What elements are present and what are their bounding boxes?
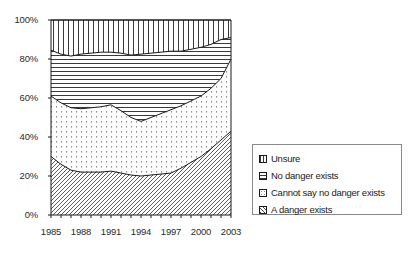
stacked-area-chart: 100% 80% 60% 40% 20% 0% 1985 1988 1991 1… [0,0,408,262]
legend-item-cannot-say-no-danger-exists[interactable]: Cannot say no danger exists [259,185,401,201]
legend-swatch-dotted-icon [259,189,267,197]
legend-swatch-horizontal-lines-icon [259,172,267,180]
legend-item-no-danger-exists[interactable]: No danger exists [259,168,401,184]
legend-label-unsure: Unsure [271,154,300,164]
chart-legend: Unsure No danger exists Cannot say no da… [252,144,402,215]
legend-label-no-danger-exists: No danger exists [271,171,338,181]
legend-item-a-danger-exists[interactable]: A danger exists [259,202,401,218]
legend-swatch-vertical-lines-icon [259,155,267,163]
legend-item-unsure[interactable]: Unsure [259,151,401,167]
area-series-group [51,20,231,215]
legend-label-a-danger-exists: A danger exists [271,205,332,215]
plot-area [0,0,408,262]
legend-swatch-diagonal-hatch-icon [259,206,267,214]
legend-label-cannot-say-no-danger-exists: Cannot say no danger exists [271,188,385,198]
